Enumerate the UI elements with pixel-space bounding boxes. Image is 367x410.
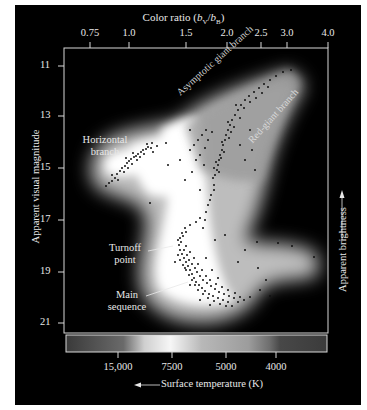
- bottom-tick-15000: 15,000: [104, 361, 133, 372]
- bottom-tick-5000: 5000: [216, 361, 237, 372]
- bottom-tick-4000: 4000: [266, 361, 287, 372]
- top-tick-2.5: 2.5: [254, 27, 267, 38]
- y-tick-19: 19: [40, 265, 51, 276]
- bottom-tick-7500: 7500: [162, 361, 183, 372]
- annotation-horizontal-branch: Horizontal branch: [80, 134, 130, 158]
- y-tick-13: 13: [40, 109, 51, 120]
- annotation-main-sequence: Main sequence: [104, 289, 150, 313]
- annotation-turnoff-point: Turnoff point: [102, 242, 148, 266]
- y-axis-title: Apparent visual magnitude: [30, 107, 41, 267]
- top-tick-0.75: 0.75: [81, 27, 99, 38]
- top-tick-1.0: 1.0: [122, 27, 135, 38]
- y-tick-21: 21: [40, 316, 51, 327]
- top-tick-4.0: 4.0: [321, 27, 334, 38]
- annotation-pointers: [0, 0, 367, 410]
- top-tick-1.5: 1.5: [179, 27, 192, 38]
- y-tick-15: 15: [40, 161, 51, 172]
- top-tick-3.0: 3.0: [280, 27, 293, 38]
- right-axis-title: Apparent brightness: [337, 195, 348, 305]
- y-tick-17: 17: [40, 213, 51, 224]
- top-axis-title: Color ratio (bV/bB): [0, 11, 367, 26]
- bottom-axis-title: Surface temperature (K): [161, 378, 263, 389]
- y-tick-11: 11: [40, 59, 50, 70]
